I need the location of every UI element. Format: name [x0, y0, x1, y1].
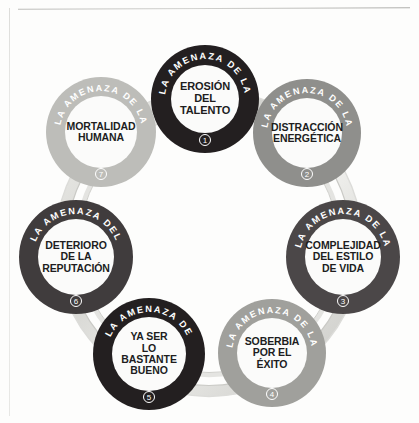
- node-3-label: COMPLEJIDAD DEL ESTILO DE VIDA: [303, 240, 382, 274]
- node-7-number: 7: [95, 168, 107, 180]
- node-6-label: DETERIORO DE LA REPUTACIÓN: [40, 240, 112, 274]
- node-5-label: YA SER LO BASTANTE BUENO: [112, 331, 186, 376]
- cycle-node-6[interactable]: LA AMENAZA DEL DETERIORO DE LA REPUTACIÓ…: [19, 200, 133, 314]
- node-7-center: MORTALIDAD HUMANA: [65, 96, 137, 168]
- node-6-center: DETERIORO DE LA REPUTACIÓN: [38, 219, 114, 295]
- cycle-node-7[interactable]: LA AMENAZA DE LA MORTALIDAD HUMANA 7: [46, 77, 156, 187]
- node-1-center: EROSIÓN DEL TALENTO: [171, 65, 239, 133]
- node-5-center: YA SER LO BASTANTE BUENO: [112, 317, 186, 391]
- node-1-number: 1: [199, 134, 211, 146]
- node-5-number: 5: [143, 391, 155, 403]
- cycle-node-5[interactable]: LA AMENAZA DE YA SER LO BASTANTE BUENO 5: [93, 298, 205, 410]
- node-3-number: 3: [337, 295, 349, 307]
- node-4-center: SOBERBIA POR EL ÉXITO: [237, 318, 307, 388]
- cycle-node-3[interactable]: LA AMENAZA DE LA COMPLEJIDAD DEL ESTILO …: [286, 200, 400, 314]
- node-4-number: 4: [266, 388, 278, 400]
- cycle-node-1[interactable]: LA AMENAZA DE LA EROSIÓN DEL TALENTO 1: [151, 45, 259, 153]
- node-1-label: EROSIÓN DEL TALENTO: [178, 81, 232, 117]
- node-6-number: 6: [70, 295, 82, 307]
- diagram-page: LA AMENAZA DE LA EROSIÓN DEL TALENTO 1 L…: [0, 0, 419, 423]
- node-3-center: COMPLEJIDAD DEL ESTILO DE VIDA: [305, 219, 381, 295]
- node-2-center: DISTRACCIÓN ENERGÉTICA: [272, 98, 342, 168]
- node-4-label: SOBERBIA POR EL ÉXITO: [237, 336, 307, 370]
- cycle-node-4[interactable]: LA AMENAZA DE LA SOBERBIA POR EL ÉXITO 4: [218, 299, 326, 407]
- node-2-number: 2: [301, 168, 313, 180]
- cycle-node-2[interactable]: LA AMENAZA DE LA DISTRACCIÓN ENERGÉTICA …: [253, 79, 361, 187]
- node-2-label: DISTRACCIÓN ENERGÉTICA: [269, 122, 345, 145]
- node-7-label: MORTALIDAD HUMANA: [65, 121, 138, 144]
